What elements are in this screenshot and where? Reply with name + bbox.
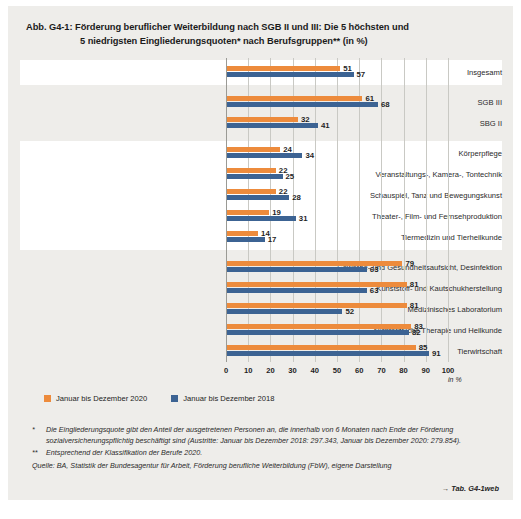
gridline-100 [448,58,449,362]
legend-swatch-icon [44,395,51,402]
bar-2020 [227,189,276,194]
source-line: Quelle: BA, Statistik der Bundesagentur … [32,460,498,471]
bar-2018 [227,153,302,158]
x-tick-80: 80 [399,366,407,375]
x-tick-0: 0 [224,366,228,375]
bar-2020 [227,117,298,122]
bar-value-label: 63 [370,265,379,274]
bar-2020 [227,324,411,329]
figure-notes: * Die Eingliederungsquote gibt den Antei… [32,424,498,471]
chart-legend: Januar bis Dezember 2020Januar bis Dezem… [44,394,274,403]
x-tick-30: 30 [288,366,296,375]
bar-value-label: 82 [412,328,421,337]
footnote-1-marker: * [32,424,42,447]
bar-value-label: 81 [410,301,419,310]
bar-value-label: 81 [410,280,419,289]
bar-2020 [227,96,362,101]
bar-2018 [227,216,296,221]
bar-2020 [227,303,407,308]
footnote-1-text: Die Eingliederungsquote gibt den Anteil … [46,424,498,447]
bar-2018 [227,72,354,77]
plot-area: 5157616832412434222522281931141779638163… [226,58,448,362]
bar-value-label: 57 [357,70,366,79]
bar-2018 [227,309,342,314]
bar-value-label: 63 [370,286,379,295]
x-tick-20: 20 [266,366,274,375]
figure-container: Abb. G4-1: Förderung beruflicher Weiterb… [8,6,513,500]
bar-value-label: 79 [405,259,414,268]
footnote-2-text: Entsprechend der Klassifikation der Beru… [46,447,498,458]
x-tick-90: 90 [422,366,430,375]
figure-title: Abb. G4-1: Förderung beruflicher Weiterb… [8,6,513,58]
bar-2020 [227,345,416,350]
legend-label: Januar bis Dezember 2020 [56,394,147,403]
bar-2020 [227,282,407,287]
bar-value-label: 52 [345,307,354,316]
x-tick-60: 60 [355,366,363,375]
x-tick-50: 50 [333,366,341,375]
x-tick-40: 40 [311,366,319,375]
bar-value-label: 28 [292,193,301,202]
bar-2018 [227,123,318,128]
bar-2020 [227,210,269,215]
bar-value-label: 31 [299,214,308,223]
x-axis: in % 0102030405060708090100 [226,362,466,388]
bar-2018 [227,267,367,272]
bar-2018 [227,195,289,200]
bar-2020 [227,66,340,71]
legend-item-2020[interactable]: Januar bis Dezember 2020 [44,394,147,403]
footnote-1: * Die Eingliederungsquote gibt den Antei… [32,424,498,447]
x-tick-100: 100 [442,366,455,375]
figure-title-line-2: 5 niedrigsten Eingliederungsquoten* nach… [26,34,495,48]
figure-title-line-1: Abb. G4-1: Förderung beruflicher Weiterb… [26,20,495,34]
bar-value-label: 17 [268,235,277,244]
x-axis-unit-label: in % [448,376,462,383]
bar-2020 [227,168,276,173]
bar-2020 [227,147,280,152]
bar-2018 [227,351,429,356]
bar-chart: InsgesamtSGB IIISBG IIKörperpflegeVerans… [20,58,502,388]
bar-2018 [227,288,367,293]
figure-page: Abb. G4-1: Förderung beruflicher Weiterb… [0,0,521,519]
bar-2018 [227,174,283,179]
legend-item-2018[interactable]: Januar bis Dezember 2018 [171,394,274,403]
gridline-80 [404,58,405,362]
bar-value-label: 91 [432,349,441,358]
footnote-2: ** Entsprechend der Klassifikation der B… [32,447,498,458]
bar-value-label: 41 [321,121,330,130]
gridline-90 [426,58,427,362]
table-reference-link[interactable]: → Tab. G4-1web [442,484,499,493]
bar-2018 [227,237,265,242]
footnote-2-marker: ** [32,447,42,458]
bar-2018 [227,102,378,107]
bar-value-label: 25 [286,172,295,181]
bar-value-label: 68 [381,100,390,109]
legend-swatch-icon [171,395,178,402]
legend-label: Januar bis Dezember 2018 [183,394,274,403]
bar-value-label: 34 [305,151,314,160]
bar-2020 [227,231,258,236]
x-tick-70: 70 [377,366,385,375]
x-tick-10: 10 [244,366,252,375]
bar-2018 [227,330,409,335]
